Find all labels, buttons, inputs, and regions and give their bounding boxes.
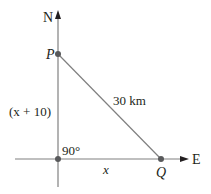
east-label: E xyxy=(192,152,201,167)
east-arrow-icon xyxy=(180,156,189,162)
horizontal-side-label: x xyxy=(102,162,109,177)
angle-label: 90° xyxy=(62,143,80,158)
point-q xyxy=(158,156,164,162)
point-p xyxy=(55,51,61,57)
north-arrow-icon xyxy=(55,10,61,19)
point-q-label: Q xyxy=(156,165,166,180)
north-label: N xyxy=(43,10,53,25)
vertical-side-label: (x + 10) xyxy=(9,104,51,119)
diagram-canvas: N E P Q (x + 10) 30 km 90° x xyxy=(0,0,211,194)
right-triangle-diagram: N E P Q (x + 10) 30 km 90° x xyxy=(0,0,211,194)
hypotenuse-label: 30 km xyxy=(113,93,146,108)
point-p-label: P xyxy=(45,47,55,62)
point-origin xyxy=(55,156,61,162)
